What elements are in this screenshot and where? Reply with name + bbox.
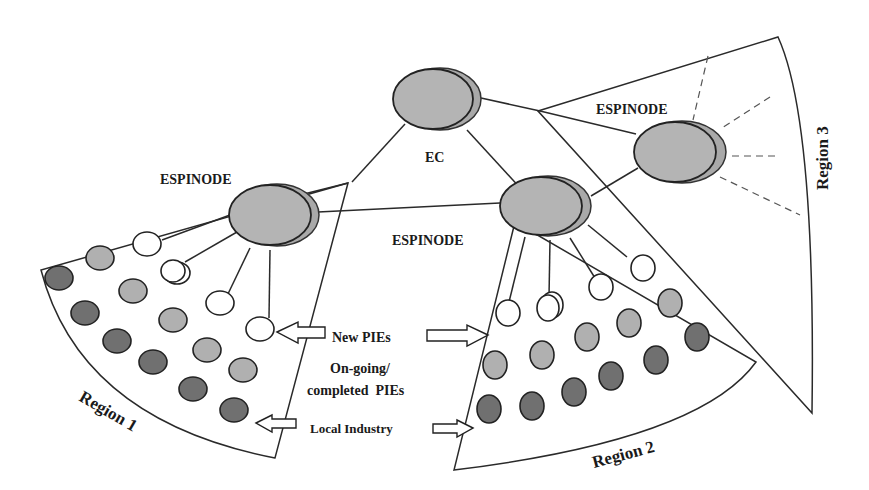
- region-3-label: Region 3: [813, 126, 832, 190]
- arrow-new-pies-right-icon: [427, 325, 488, 346]
- arrow-new-pies-left-icon: [277, 322, 325, 343]
- espinode-2[interactable]: [500, 176, 591, 236]
- region-2-outline: [454, 222, 756, 470]
- arrow-local-industry-right-icon: [433, 420, 473, 437]
- legend-ongoing-line-1: On-going/: [330, 361, 391, 376]
- espinode-1[interactable]: [229, 184, 319, 246]
- legend-ongoing-line-2: completed PIEs: [307, 383, 405, 398]
- espinode-3-label: ESPINODE: [596, 102, 668, 117]
- espinode-1-label: ESPINODE: [160, 172, 232, 187]
- legend-local-industry: Local Industry: [310, 421, 393, 436]
- legend-new-pies: New PIEs: [332, 330, 391, 345]
- region-2-pies: [477, 255, 709, 423]
- region-1-label: Region 1: [76, 387, 141, 435]
- arrow-local-industry-left-icon: [256, 415, 296, 432]
- espinode-3[interactable]: [634, 121, 726, 183]
- region-2-label: Region 2: [590, 437, 656, 472]
- espinode-network-diagram: EC ESPINODE ESPINODE ESPINODE: [0, 0, 869, 490]
- region-1-pies: [45, 232, 274, 422]
- ec-label: EC: [425, 150, 444, 165]
- espinode-2-label: ESPINODE: [392, 233, 464, 248]
- ec-node[interactable]: [393, 68, 481, 130]
